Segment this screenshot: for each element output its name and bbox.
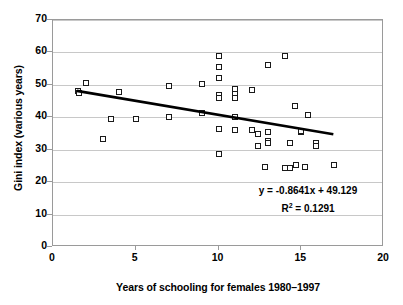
data-point <box>76 90 82 96</box>
x-tick-label: 10 <box>198 252 238 263</box>
data-point <box>287 140 293 146</box>
data-point <box>116 89 122 95</box>
data-point <box>292 103 298 109</box>
y-tick-label: 10 <box>7 208 47 219</box>
data-point <box>199 81 205 87</box>
y-tick-label: 30 <box>7 143 47 154</box>
data-point <box>287 165 293 171</box>
data-point <box>216 151 222 157</box>
data-point <box>282 53 288 59</box>
data-point <box>232 127 238 133</box>
scatter-chart: Gini index (various years) 0102030405060… <box>0 0 403 305</box>
data-point <box>100 136 106 142</box>
data-point <box>216 126 222 132</box>
data-point <box>133 116 139 122</box>
r-squared-line: R2 = 0.1291 <box>238 198 378 216</box>
gridline <box>53 117 382 118</box>
data-point <box>331 162 337 168</box>
x-tick-mark <box>218 246 219 250</box>
x-tick-label: 5 <box>115 252 155 263</box>
data-point <box>265 140 271 146</box>
data-point <box>166 83 172 89</box>
data-point <box>216 53 222 59</box>
data-point <box>216 64 222 70</box>
x-tick-label: 20 <box>363 252 403 263</box>
data-point <box>249 127 255 133</box>
data-point <box>249 87 255 93</box>
y-tick-label: 20 <box>7 175 47 186</box>
data-point <box>313 143 319 149</box>
data-point <box>199 110 205 116</box>
data-point <box>216 95 222 101</box>
y-tick-label: 60 <box>7 45 47 56</box>
gridline <box>53 85 382 86</box>
regression-annotation: y = -0.8641x + 49.129 R2 = 0.1291 <box>238 183 378 216</box>
x-tick-mark <box>300 246 301 250</box>
y-tick-mark <box>47 246 52 247</box>
data-point <box>298 128 304 134</box>
gridline <box>53 20 382 21</box>
data-point <box>265 62 271 68</box>
y-tick-label: 70 <box>7 13 47 24</box>
x-axis-title: Years of schooling for females 1980–1997 <box>52 281 384 293</box>
data-point <box>108 116 114 122</box>
regression-equation: y = -0.8641x + 49.129 <box>238 183 378 198</box>
data-point <box>262 164 268 170</box>
x-tick-label: 0 <box>32 252 72 263</box>
y-tick-label: 0 <box>7 240 47 251</box>
data-point <box>216 75 222 81</box>
data-point <box>255 143 261 149</box>
data-point <box>255 131 261 137</box>
data-point <box>83 80 89 86</box>
data-point <box>232 114 238 120</box>
data-point <box>305 112 311 118</box>
r-squared-symbol: R <box>281 203 288 214</box>
data-point <box>265 129 271 135</box>
data-point <box>302 164 308 170</box>
r-squared-value: = 0.1291 <box>293 203 335 214</box>
x-tick-mark <box>135 246 136 250</box>
data-point <box>293 162 299 168</box>
x-tick-label: 15 <box>280 252 320 263</box>
data-point <box>232 95 238 101</box>
y-tick-label: 50 <box>7 78 47 89</box>
data-point <box>166 114 172 120</box>
y-tick-label: 40 <box>7 110 47 121</box>
